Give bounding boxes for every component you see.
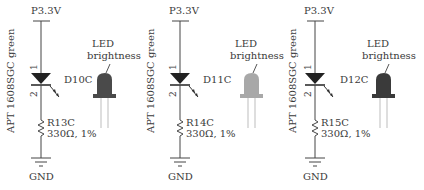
pin2-label: 2	[29, 91, 40, 97]
led-part-label: APT 1608SGC green	[287, 29, 298, 133]
resistor-value: 330Ω, 1%	[321, 128, 371, 139]
led-part-label: APT 1608SGC green	[5, 29, 16, 133]
brightness-label-line1: LED	[92, 38, 114, 50]
ground-icon	[31, 158, 51, 166]
circuit-d12c: P3.3V APT 1608SGC green 1 2 D12C R15C 33…	[282, 0, 422, 190]
resistor-designator: R13C	[47, 117, 75, 128]
ground-icon	[305, 158, 325, 166]
ground-label: GND	[168, 171, 193, 182]
ground-icon	[170, 158, 190, 166]
brightness-label-line2: brightness	[230, 50, 284, 62]
circuit-d10c: P3.3V APT 1608SGC green 1 2 D10C R13C 33…	[0, 0, 140, 190]
brightness-label-line1: LED	[367, 38, 389, 50]
resistor-designator: R14C	[186, 117, 214, 128]
pin2-label: 2	[303, 91, 314, 97]
led-bulb-icon	[372, 64, 395, 128]
schematic-graphics	[0, 0, 140, 190]
resistor-icon	[312, 120, 318, 136]
resistor-icon	[177, 120, 183, 136]
ground-label: GND	[29, 171, 54, 182]
led-bulb-icon	[93, 64, 116, 128]
brightness-label-line1: LED	[235, 38, 257, 50]
resistor-value: 330Ω, 1%	[47, 128, 97, 139]
pin1-label: 1	[29, 64, 40, 70]
brightness-label-line2: brightness	[87, 50, 141, 62]
brightness-label-line2: brightness	[362, 50, 416, 62]
diode-designator: D11C	[203, 74, 231, 85]
schematic-graphics	[140, 0, 280, 190]
ground-label: GND	[303, 171, 328, 182]
circuit-d11c: P3.3V APT 1608SGC green 1 2 D11C R14C 33…	[140, 0, 280, 190]
power-rail-label: P3.3V	[169, 5, 199, 16]
resistor-icon	[38, 120, 44, 136]
resistor-designator: R15C	[321, 117, 349, 128]
pin2-label: 2	[168, 91, 179, 97]
pin1-label: 1	[303, 64, 314, 70]
resistor-value: 330Ω, 1%	[186, 128, 236, 139]
led-part-label: APT 1608SGC green	[145, 29, 156, 133]
power-rail-label: P3.3V	[304, 5, 334, 16]
diode-designator: D12C	[340, 74, 368, 85]
power-rail-label: P3.3V	[31, 5, 61, 16]
diode-designator: D10C	[64, 74, 92, 85]
pin1-label: 1	[168, 64, 179, 70]
led-bulb-icon	[240, 64, 263, 128]
